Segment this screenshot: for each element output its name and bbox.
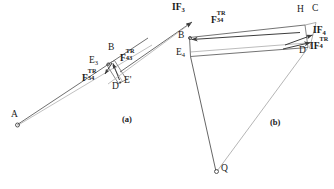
panel-caption-b-text: (b) [270,117,280,127]
label-point-e4-base: E [176,47,182,57]
label-point-d-a-text: D [112,81,119,91]
label-point-d-b-text: D [299,45,306,55]
leg-e4-to-q [191,57,216,171]
label-force-f34-tr-b-indices: TR34 [217,14,228,23]
label-point-e3-sub: 3 [95,59,98,66]
label-force-if3: IF3 [172,3,185,13]
panel-caption-b: (b) [270,118,280,127]
vertex-dot-d-a [119,81,121,83]
label-point-e3-base: E [89,55,95,65]
label-force-if4-tr-indices: TR4 [320,40,331,49]
label-force-if4-base: IF [313,25,323,35]
diagram-canvas [0,0,334,189]
label-force-if4-tr-sub: 4 [320,43,323,50]
label-point-b-b-text: B [178,30,184,40]
panel-caption-a: (a) [122,115,132,124]
label-force-if4-tr-base: IF [310,41,320,51]
label-force-f34-tr-b-sub: 34 [217,17,224,24]
label-point-e-prime-text: E' [124,75,132,85]
leg-d-to-q [218,49,308,171]
bar-bottom-edge [191,48,309,57]
label-force-f43-tr-sub: 43 [126,55,133,62]
label-point-d-a: D [112,82,119,92]
label-force-if3-sub: 3 [182,6,185,13]
label-force-f34-tr-b: FTR34 [211,14,228,26]
panel-b-geometry [108,22,316,174]
panel-caption-a-text: (a) [122,114,132,124]
label-force-if4-tr: IFTR4 [310,40,331,52]
force-arrow-f34-tr-b [192,33,301,40]
label-point-a: A [11,110,18,120]
label-point-b-b: B [178,31,184,41]
label-force-f34-tr-a: FTR34 [82,72,99,84]
label-point-e4: E4 [176,48,185,58]
label-force-f34-tr-a-sub: 34 [88,75,95,82]
label-point-b-a: B [108,43,114,53]
label-force-f43-tr-indices: TR43 [126,52,137,61]
label-force-f43-tr: FTR43 [120,52,137,64]
label-point-c: C [312,4,318,14]
label-point-a-text: A [11,109,18,119]
label-point-q-text: Q [221,163,228,173]
figure-container: A E3 B D E' FTR43 FTR34 IF3 FTR34 B E4 H… [0,0,334,189]
label-point-q: Q [221,164,228,174]
label-force-f34-tr-a-indices: TR34 [88,72,99,81]
label-point-e-prime: E' [124,76,132,86]
label-point-h-text: H [297,4,304,14]
bar-left-cap [190,38,191,57]
label-point-b-a-text: B [108,42,114,52]
label-force-if3-base: IF [172,2,182,12]
label-point-c-text: C [312,3,318,13]
label-point-e3: E3 [89,56,98,66]
label-point-e4-sub: 4 [182,51,185,58]
vertex-circle-q [215,170,219,174]
label-point-h: H [297,5,304,15]
label-point-d-b: D [299,46,306,56]
